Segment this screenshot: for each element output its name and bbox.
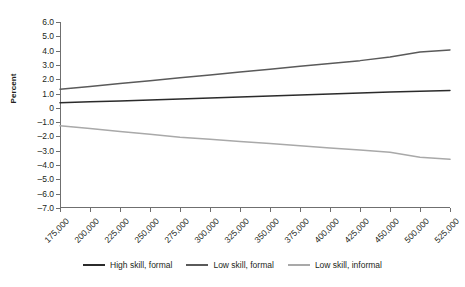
x-tick-label: 425,000 — [342, 216, 371, 245]
x-tick-label: 500,000 — [402, 216, 431, 245]
x-tick-mark — [90, 208, 91, 212]
legend-item[interactable]: High skill, formal — [83, 260, 172, 270]
y-axis-title: Percent — [9, 54, 18, 124]
x-tick-mark — [180, 208, 181, 212]
legend-line-swatch — [83, 264, 105, 266]
y-tick-label: 1.0 — [42, 89, 54, 99]
legend-label: Low skill, formal — [213, 260, 273, 270]
x-tick-mark — [420, 208, 421, 212]
legend-line-swatch — [186, 264, 208, 266]
y-tick-label: 3.0 — [42, 60, 54, 70]
x-tick-mark — [150, 208, 151, 212]
x-tick-label: 400,000 — [312, 216, 341, 245]
series-line — [60, 90, 450, 102]
y-tick-label: 0 — [49, 103, 54, 113]
chart-legend: High skill, formalLow skill, formalLow s… — [0, 260, 465, 270]
x-tick-mark — [210, 208, 211, 212]
x-tick-label: 200,000 — [72, 216, 101, 245]
y-tick-label: 6.0 — [42, 17, 54, 27]
x-tick-mark — [240, 208, 241, 212]
y-tick-label: 4.0 — [42, 46, 54, 56]
legend-label: Low skill, informal — [315, 260, 382, 270]
legend-line-swatch — [288, 264, 310, 266]
x-tick-label: 250,000 — [132, 216, 161, 245]
x-tick-mark — [300, 208, 301, 212]
series-line — [60, 126, 450, 160]
x-tick-mark — [60, 208, 61, 212]
x-tick-mark — [450, 208, 451, 212]
y-tick-label: 2.0 — [42, 74, 54, 84]
y-tick-label: –4.0 — [37, 160, 54, 170]
x-tick-mark — [270, 208, 271, 212]
x-tick-label: 175,000 — [42, 216, 71, 245]
plot-area: 6.05.04.03.02.01.00–1.0–2.0–3.0–4.0–5.0–… — [60, 22, 450, 208]
x-tick-label: 375,000 — [282, 216, 311, 245]
y-tick-label: 5.0 — [42, 31, 54, 41]
x-tick-label: 300,000 — [192, 216, 221, 245]
legend-label: High skill, formal — [110, 260, 172, 270]
x-tick-mark — [360, 208, 361, 212]
y-tick-label: –7.0 — [37, 203, 54, 213]
y-tick-label: –5.0 — [37, 174, 54, 184]
x-tick-mark — [330, 208, 331, 212]
y-tick-label: –1.0 — [37, 117, 54, 127]
x-tick-mark — [120, 208, 121, 212]
percent-line-chart: Percent 6.05.04.03.02.01.00–1.0–2.0–3.0–… — [0, 0, 465, 287]
x-tick-label: 350,000 — [252, 216, 281, 245]
x-tick-label: 225,000 — [102, 216, 131, 245]
y-tick-label: –6.0 — [37, 189, 54, 199]
x-tick-label: 325,000 — [222, 216, 251, 245]
x-tick-mark — [390, 208, 391, 212]
y-tick-label: –3.0 — [37, 146, 54, 156]
x-tick-label: 275,000 — [162, 216, 191, 245]
series-line — [60, 50, 450, 89]
series-lines — [60, 22, 450, 208]
x-tick-label: 525,000 — [432, 216, 461, 245]
legend-item[interactable]: Low skill, informal — [288, 260, 382, 270]
x-tick-label: 450,000 — [372, 216, 401, 245]
y-tick-label: –2.0 — [37, 131, 54, 141]
legend-item[interactable]: Low skill, formal — [186, 260, 273, 270]
